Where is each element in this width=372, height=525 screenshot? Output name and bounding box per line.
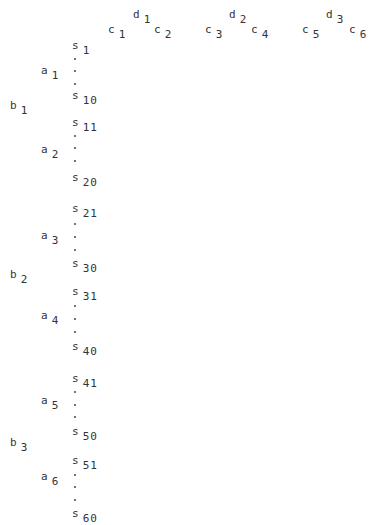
row-label-s50-subscript: 50: [83, 430, 98, 443]
column-label-d3-base: d: [326, 8, 333, 21]
row-label-s51-subscript: 51: [83, 459, 98, 472]
column-label-c2: c2: [154, 24, 168, 35]
row-label-a1-subscript: 1: [52, 69, 60, 82]
ellipsis-dot: [74, 249, 76, 251]
ellipsis-dot: [74, 83, 76, 85]
ellipsis-dot: [74, 135, 76, 137]
row-label-s10-base: s: [72, 89, 79, 102]
row-label-b1-subscript: 1: [21, 104, 29, 117]
row-label-s51: s51: [72, 455, 94, 466]
row-label-s31-subscript: 31: [83, 290, 98, 303]
column-label-c3-base: c: [205, 23, 212, 36]
row-label-s21-base: s: [72, 202, 79, 215]
row-label-s21: s21: [72, 203, 94, 214]
column-label-c1-subscript: 1: [119, 28, 127, 41]
ellipsis-dot: [74, 58, 76, 60]
column-label-c3: c3: [205, 24, 219, 35]
row-label-s30-base: s: [72, 257, 79, 270]
row-label-a6-subscript: 6: [52, 475, 60, 488]
column-label-c4-base: c: [251, 23, 258, 36]
row-label-a3: a3: [41, 230, 55, 241]
row-label-s11: s11: [72, 117, 94, 128]
row-label-s1-base: s: [72, 39, 79, 52]
row-label-b3-subscript: 3: [21, 441, 29, 454]
row-label-s1: s1: [72, 40, 86, 51]
row-label-s40-base: s: [72, 340, 79, 353]
ellipsis-dot: [74, 486, 76, 488]
column-label-c6-subscript: 6: [360, 28, 368, 41]
row-label-s1-subscript: 1: [83, 44, 91, 57]
row-label-s10-subscript: 10: [83, 94, 98, 107]
row-label-b3-base: b: [10, 436, 17, 449]
column-label-c1: c1: [108, 24, 122, 35]
row-label-s60: s60: [72, 508, 94, 519]
row-label-s30-subscript: 30: [83, 262, 98, 275]
row-label-s41: s41: [72, 373, 94, 384]
row-label-s50-base: s: [72, 425, 79, 438]
row-label-a5: a5: [41, 395, 55, 406]
row-label-s10: s10: [72, 90, 94, 101]
row-label-b3: b3: [10, 437, 24, 448]
column-label-d3: d3: [326, 9, 340, 20]
column-label-d1-subscript: 1: [144, 13, 152, 26]
column-label-d2-base: d: [229, 8, 236, 21]
row-label-a3-base: a: [41, 229, 48, 242]
ellipsis-dot: [74, 147, 76, 149]
column-label-c5: c5: [302, 24, 316, 35]
row-label-s20-subscript: 20: [83, 176, 98, 189]
column-label-c4: c4: [251, 24, 265, 35]
row-label-a3-subscript: 3: [52, 234, 60, 247]
column-label-d1: d1: [133, 9, 147, 20]
row-label-s41-subscript: 41: [83, 377, 98, 390]
row-label-a6-base: a: [41, 470, 48, 483]
row-label-s11-subscript: 11: [83, 121, 98, 134]
ellipsis-dot: [74, 499, 76, 501]
row-label-b1: b1: [10, 100, 24, 111]
row-label-s41-base: s: [72, 372, 79, 385]
ellipsis-dot: [74, 305, 76, 307]
row-label-b2-subscript: 2: [21, 273, 29, 286]
column-label-c2-subscript: 2: [165, 28, 173, 41]
row-label-a6: a6: [41, 471, 55, 482]
row-label-s60-base: s: [72, 507, 79, 520]
column-label-c3-subscript: 3: [216, 28, 224, 41]
ellipsis-dot: [74, 70, 76, 72]
column-label-d3-subscript: 3: [337, 13, 345, 26]
column-label-c5-base: c: [302, 23, 309, 36]
ellipsis-dot: [74, 416, 76, 418]
column-label-c6: c6: [349, 24, 363, 35]
ellipsis-dot: [74, 223, 76, 225]
row-label-a4-base: a: [41, 309, 48, 322]
column-label-d1-base: d: [133, 8, 140, 21]
column-label-c2-base: c: [154, 23, 161, 36]
row-label-s20: s20: [72, 172, 94, 183]
row-label-a4-subscript: 4: [52, 314, 60, 327]
row-label-s20-base: s: [72, 171, 79, 184]
ellipsis-dot: [74, 474, 76, 476]
row-label-b2: b2: [10, 269, 24, 280]
ellipsis-dot: [74, 331, 76, 333]
row-label-s60-subscript: 60: [83, 512, 98, 525]
row-label-s30: s30: [72, 258, 94, 269]
row-label-s21-subscript: 21: [83, 207, 98, 220]
row-label-s31: s31: [72, 286, 94, 297]
row-label-a2-subscript: 2: [52, 148, 60, 161]
row-label-s40: s40: [72, 341, 94, 352]
row-label-s31-base: s: [72, 285, 79, 298]
row-label-b2-base: b: [10, 268, 17, 281]
ellipsis-dot: [74, 318, 76, 320]
ellipsis-dot: [74, 404, 76, 406]
row-label-s51-base: s: [72, 454, 79, 467]
ellipsis-dot: [74, 160, 76, 162]
column-label-d2-subscript: 2: [240, 13, 248, 26]
column-label-c6-base: c: [349, 23, 356, 36]
row-label-a1-base: a: [41, 64, 48, 77]
column-label-d2: d2: [229, 9, 243, 20]
row-label-a1: a1: [41, 65, 55, 76]
row-label-s50: s50: [72, 426, 94, 437]
row-label-a5-subscript: 5: [52, 399, 60, 412]
row-label-a4: a4: [41, 310, 55, 321]
ellipsis-dot: [74, 391, 76, 393]
row-label-s40-subscript: 40: [83, 345, 98, 358]
row-label-b1-base: b: [10, 99, 17, 112]
